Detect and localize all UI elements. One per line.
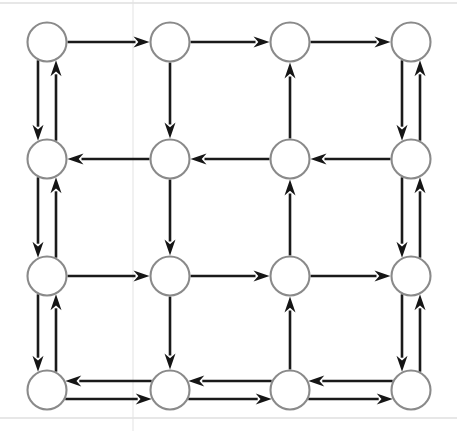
- arrowhead-icon: [375, 271, 391, 282]
- graph-edge: [51, 60, 62, 140]
- node-circle[interactable]: [392, 257, 431, 296]
- arrowhead-icon: [51, 60, 62, 76]
- graph-edge: [308, 376, 392, 387]
- graph-node[interactable]: [271, 371, 310, 410]
- graph-edge: [191, 154, 270, 165]
- arrowhead-icon: [311, 154, 327, 165]
- graph-edge: [68, 154, 150, 165]
- node-circle[interactable]: [151, 257, 190, 296]
- graph-edge: [415, 60, 426, 140]
- node-circle[interactable]: [28, 23, 67, 62]
- arrowhead-icon: [188, 376, 204, 387]
- graph-node[interactable]: [151, 371, 190, 410]
- arrowhead-icon: [165, 123, 176, 139]
- node-circle[interactable]: [392, 23, 431, 62]
- graph-edge: [165, 63, 176, 139]
- graph-node[interactable]: [271, 140, 310, 179]
- arrowhead-icon: [33, 242, 44, 258]
- scan-artifact-layer: [0, 0, 457, 431]
- arrowhead-icon: [415, 60, 426, 76]
- arrowhead-icon: [254, 271, 270, 282]
- arrowhead-icon: [308, 376, 324, 387]
- graph-edge: [188, 376, 271, 387]
- graph-node[interactable]: [392, 140, 431, 179]
- node-circle[interactable]: [271, 371, 310, 410]
- arrowhead-icon: [285, 297, 296, 313]
- graph-edge: [308, 394, 392, 405]
- arrowhead-icon: [256, 394, 272, 405]
- node-circle[interactable]: [271, 23, 310, 62]
- arrowhead-icon: [33, 125, 44, 141]
- graph-edge: [397, 177, 408, 257]
- graph-node[interactable]: [151, 257, 190, 296]
- graph-edge: [33, 294, 44, 371]
- graph-edge: [191, 37, 270, 48]
- node-circle[interactable]: [271, 257, 310, 296]
- arrowhead-icon: [397, 242, 408, 258]
- arrowhead-icon: [134, 37, 150, 48]
- arrowhead-icon: [33, 356, 44, 372]
- arrowhead-icon: [415, 177, 426, 193]
- graph-node[interactable]: [392, 371, 431, 410]
- graph-edge: [68, 37, 150, 48]
- arrowhead-icon: [68, 154, 84, 165]
- arrowhead-icon: [134, 271, 150, 282]
- arrowhead-icon: [397, 356, 408, 372]
- node-circle[interactable]: [392, 140, 431, 179]
- graph-edge: [311, 37, 391, 48]
- graph-node[interactable]: [28, 371, 67, 410]
- edge-layer: [33, 37, 426, 405]
- arrowhead-icon: [397, 125, 408, 141]
- node-circle[interactable]: [151, 23, 190, 62]
- graph-edge: [51, 177, 62, 257]
- directed-grid-graph: [0, 0, 457, 431]
- arrowhead-icon: [191, 154, 207, 165]
- arrowhead-icon: [165, 354, 176, 370]
- graph-edge: [65, 376, 151, 387]
- arrowhead-icon: [285, 180, 296, 196]
- node-circle[interactable]: [271, 140, 310, 179]
- graph-node[interactable]: [151, 23, 190, 62]
- arrowhead-icon: [285, 63, 296, 79]
- graph-node[interactable]: [392, 257, 431, 296]
- node-circle[interactable]: [28, 257, 67, 296]
- graph-node[interactable]: [151, 140, 190, 179]
- graph-node[interactable]: [392, 23, 431, 62]
- graph-edge: [397, 60, 408, 140]
- arrowhead-icon: [254, 37, 270, 48]
- node-circle[interactable]: [28, 140, 67, 179]
- graph-edge: [165, 180, 176, 256]
- graph-edge: [415, 177, 426, 257]
- graph-edge: [191, 271, 270, 282]
- arrowhead-icon: [136, 394, 152, 405]
- figure-root: [0, 0, 457, 431]
- arrowhead-icon: [51, 177, 62, 193]
- graph-edge: [33, 177, 44, 257]
- graph-edge: [51, 294, 62, 371]
- arrowhead-icon: [51, 294, 62, 310]
- node-circle[interactable]: [151, 140, 190, 179]
- graph-edge: [165, 297, 176, 370]
- node-circle[interactable]: [392, 371, 431, 410]
- graph-edge: [285, 180, 296, 256]
- node-circle[interactable]: [28, 371, 67, 410]
- graph-edge: [311, 154, 391, 165]
- graph-node[interactable]: [271, 23, 310, 62]
- graph-edge: [415, 294, 426, 371]
- node-layer: [28, 23, 431, 410]
- graph-edge: [68, 271, 150, 282]
- graph-edge: [397, 294, 408, 371]
- graph-node[interactable]: [28, 257, 67, 296]
- arrowhead-icon: [415, 294, 426, 310]
- graph-edge: [311, 271, 391, 282]
- graph-edge: [188, 394, 271, 405]
- graph-edge: [65, 394, 151, 405]
- arrowhead-icon: [165, 240, 176, 256]
- graph-node[interactable]: [28, 140, 67, 179]
- node-circle[interactable]: [151, 371, 190, 410]
- graph-node[interactable]: [271, 257, 310, 296]
- graph-node[interactable]: [28, 23, 67, 62]
- arrowhead-icon: [377, 394, 393, 405]
- arrowhead-icon: [65, 376, 81, 387]
- arrowhead-icon: [375, 37, 391, 48]
